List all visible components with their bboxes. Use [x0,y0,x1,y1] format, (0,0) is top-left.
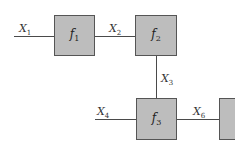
signal-label-x1: X1 [19,23,31,37]
signal-line-x3 [156,56,157,98]
signal-label-x2: X2 [109,23,121,37]
signal-label-x6: X6 [193,106,205,120]
block-f2-label: f2 [151,27,161,43]
block-f3-label: f3 [152,111,162,127]
signal-label-x3: X3 [161,73,173,87]
block-f2: f2 [135,15,177,56]
block-diagram: f1 f2 f3 X1 X2 X3 X4 X6 [0,0,235,150]
block-f1: f1 [54,15,95,56]
signal-label-x4: X4 [97,106,109,120]
block-f1-label: f1 [70,27,80,43]
block-f3: f3 [136,98,177,140]
block-partial [219,98,235,140]
